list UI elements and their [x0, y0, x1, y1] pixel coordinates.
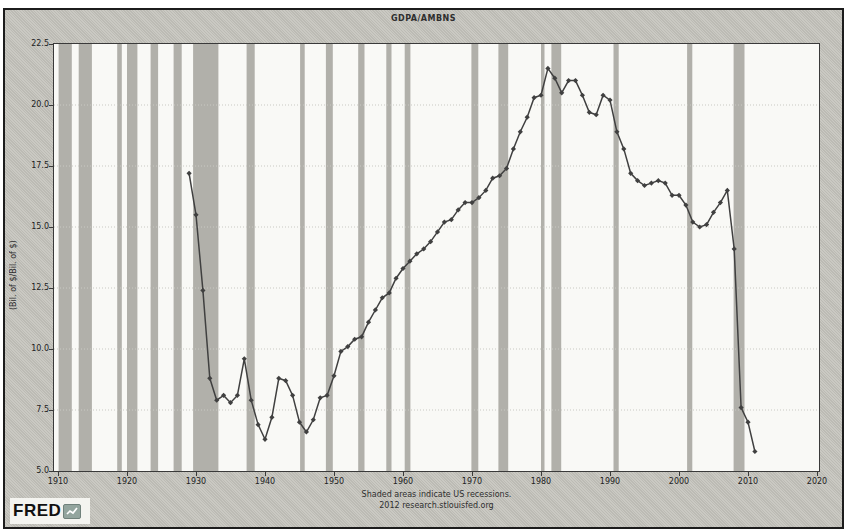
footer-note: Shaded areas indicate US recessions. — [54, 490, 819, 500]
data-point-marker — [518, 129, 523, 134]
data-point-marker — [318, 395, 323, 400]
x-tick-mark — [748, 472, 749, 476]
x-tick-mark — [265, 472, 266, 476]
x-tick-label: 1960 — [383, 477, 423, 487]
data-point-marker — [276, 376, 281, 381]
recession-band — [59, 44, 72, 471]
data-point-marker — [587, 110, 592, 115]
x-tick-mark — [610, 472, 611, 476]
recession-band — [174, 44, 182, 471]
x-tick-label: 1980 — [521, 477, 561, 487]
y-tick-label: 10.0 — [9, 344, 49, 354]
recession-band — [498, 44, 508, 471]
data-point-marker — [256, 422, 261, 427]
x-tick-mark — [679, 472, 680, 476]
data-point-marker — [187, 171, 192, 176]
x-tick-mark — [334, 472, 335, 476]
recession-band — [79, 44, 92, 471]
y-tick-mark — [49, 288, 53, 289]
data-point-marker — [525, 115, 530, 120]
recession-band — [300, 44, 305, 471]
data-point-marker — [656, 178, 661, 183]
plot-area — [53, 43, 820, 472]
y-tick-label: 20.0 — [9, 100, 49, 110]
data-point-marker — [573, 78, 578, 83]
x-tick-label: 1910 — [38, 477, 78, 487]
chart-frame: GDPA/AMBNS (Bil. of $/Bil. of $) 22.520.… — [3, 8, 844, 529]
footer-source: 2012 research.stlouisfed.org — [54, 501, 819, 511]
data-point-marker — [621, 146, 626, 151]
data-point-marker — [290, 393, 295, 398]
x-tick-label: 2000 — [659, 477, 699, 487]
y-tick-label: 12.5 — [9, 283, 49, 293]
data-point-marker — [745, 420, 750, 425]
y-tick-mark — [49, 105, 53, 106]
recession-band — [358, 44, 364, 471]
y-tick-mark — [49, 410, 53, 411]
x-tick-label: 1990 — [590, 477, 630, 487]
x-tick-mark — [196, 472, 197, 476]
recession-band — [127, 44, 137, 471]
recession-band — [687, 44, 692, 471]
x-tick-mark — [472, 472, 473, 476]
recession-band — [551, 44, 561, 471]
y-tick-mark — [49, 166, 53, 167]
y-tick-mark — [49, 227, 53, 228]
data-point-marker — [752, 449, 757, 454]
recession-band — [541, 44, 545, 471]
y-tick-mark — [49, 44, 53, 45]
y-tick-label: 7.5 — [9, 405, 49, 415]
y-tick-label: 22.5 — [9, 39, 49, 49]
recession-band — [193, 44, 218, 471]
recession-band — [614, 44, 619, 471]
x-tick-label: 1940 — [245, 477, 285, 487]
x-tick-mark — [541, 472, 542, 476]
recession-band — [151, 44, 159, 471]
data-point-marker — [580, 93, 585, 98]
recession-band — [471, 44, 478, 471]
fred-logo: FRED — [10, 498, 90, 524]
x-tick-label: 1920 — [107, 477, 147, 487]
data-point-marker — [511, 146, 516, 151]
x-tick-label: 1930 — [176, 477, 216, 487]
recession-band — [405, 44, 411, 471]
plot-canvas — [54, 44, 819, 471]
x-tick-mark — [58, 472, 59, 476]
x-tick-label: 1950 — [314, 477, 354, 487]
x-tick-mark — [817, 472, 818, 476]
x-tick-label: 2020 — [797, 477, 837, 487]
data-point-marker — [649, 180, 654, 185]
data-point-marker — [242, 356, 247, 361]
y-tick-mark — [49, 349, 53, 350]
data-point-marker — [532, 95, 537, 100]
data-point-marker — [262, 437, 267, 442]
data-point-marker — [594, 112, 599, 117]
recession-band — [117, 44, 122, 471]
fred-logo-text: FRED — [13, 501, 61, 521]
data-point-marker — [283, 378, 288, 383]
chart-title: GDPA/AMBNS — [5, 14, 842, 23]
y-axis-label: (Bil. of $/Bil. of $) — [9, 160, 18, 390]
x-tick-mark — [403, 472, 404, 476]
y-tick-label: 5.0 — [9, 466, 49, 476]
y-tick-mark — [49, 471, 53, 472]
recession-band — [326, 44, 333, 471]
y-tick-label: 15.0 — [9, 222, 49, 232]
x-tick-label: 2010 — [728, 477, 768, 487]
y-tick-label: 17.5 — [9, 161, 49, 171]
recession-band — [386, 44, 391, 471]
fred-logo-chart-icon — [63, 504, 81, 519]
x-tick-label: 1970 — [452, 477, 492, 487]
x-tick-mark — [127, 472, 128, 476]
data-point-marker — [269, 415, 274, 420]
